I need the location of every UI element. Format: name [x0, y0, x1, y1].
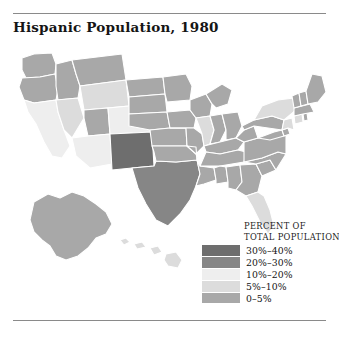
state-maine: Maine — 0–5% — [306, 74, 326, 104]
legend-label: 5%–10% — [246, 281, 287, 292]
legend-swatch — [201, 268, 241, 280]
map-legend: PERCENT OF TOTAL POPULATION 30%–40%20%–3… — [201, 221, 337, 304]
legend-swatch — [201, 280, 241, 292]
top-divider-rule — [13, 13, 326, 14]
state-minnesota: Minnesota — 0–5% — [163, 74, 192, 102]
legend-row: 5%–10% — [201, 280, 337, 292]
legend-row: 20%–30% — [201, 256, 337, 268]
legend-heading-line2: TOTAL POPULATION — [244, 232, 337, 243]
legend-heading-line1: PERCENT OF — [244, 221, 337, 232]
state-hawaii: Hawaii — 5%–10% — [120, 238, 182, 268]
map-figure: Hispanic Population, 1980 Washington — 0… — [0, 0, 339, 338]
legend-rows: 30%–40%20%–30%10%–20%5%–10%0–5% — [201, 244, 337, 304]
legend-label: 30%–40% — [246, 245, 293, 256]
state-alaska: Alaska — 0–5% — [30, 192, 112, 260]
legend-swatch — [201, 244, 241, 256]
legend-row: 30%–40% — [201, 244, 337, 256]
state-wyoming: Wyoming — 5%–10% — [80, 80, 129, 110]
state-arizona: Arizona — 10%–20% — [72, 134, 112, 168]
legend-label: 20%–30% — [246, 257, 293, 268]
state-south-dakota: South Dakota — 0–5% — [129, 94, 167, 114]
state-washington: Washington — 0–5% — [22, 53, 56, 78]
legend-swatch — [201, 292, 241, 304]
legend-label: 10%–20% — [246, 269, 293, 280]
state-nebraska: Nebraska — 0–5% — [129, 112, 170, 130]
page-title: Hispanic Population, 1980 — [13, 19, 219, 35]
state-new-mexico: New Mexico — 30%–40% — [110, 132, 154, 170]
state-oregon: Oregon — 0–5% — [19, 74, 58, 103]
bottom-divider-rule — [13, 320, 326, 321]
legend-swatch — [201, 256, 241, 268]
legend-label: 0–5% — [246, 293, 272, 304]
state-utah: Utah — 0–5% — [84, 108, 110, 136]
legend-row: 10%–20% — [201, 268, 337, 280]
state-texas: Texas — 20%–30% — [132, 160, 200, 226]
state-new-york: New York — 5%–10% — [254, 98, 296, 120]
state-kansas: Kansas — 0–5% — [150, 128, 187, 146]
legend-heading: PERCENT OF TOTAL POPULATION — [244, 221, 337, 242]
legend-row: 0–5% — [201, 292, 337, 304]
